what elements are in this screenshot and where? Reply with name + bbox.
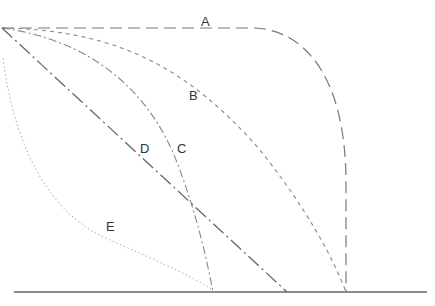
diagram-canvas: A B C D E bbox=[0, 0, 435, 306]
label-c: C bbox=[177, 141, 186, 156]
label-d: D bbox=[140, 141, 149, 156]
curve-a bbox=[2, 28, 346, 292]
curve-d bbox=[2, 28, 287, 292]
label-b: B bbox=[189, 88, 198, 103]
curve-b bbox=[2, 28, 346, 292]
curve-c bbox=[2, 28, 213, 292]
label-e: E bbox=[106, 219, 115, 234]
label-a: A bbox=[201, 14, 210, 29]
